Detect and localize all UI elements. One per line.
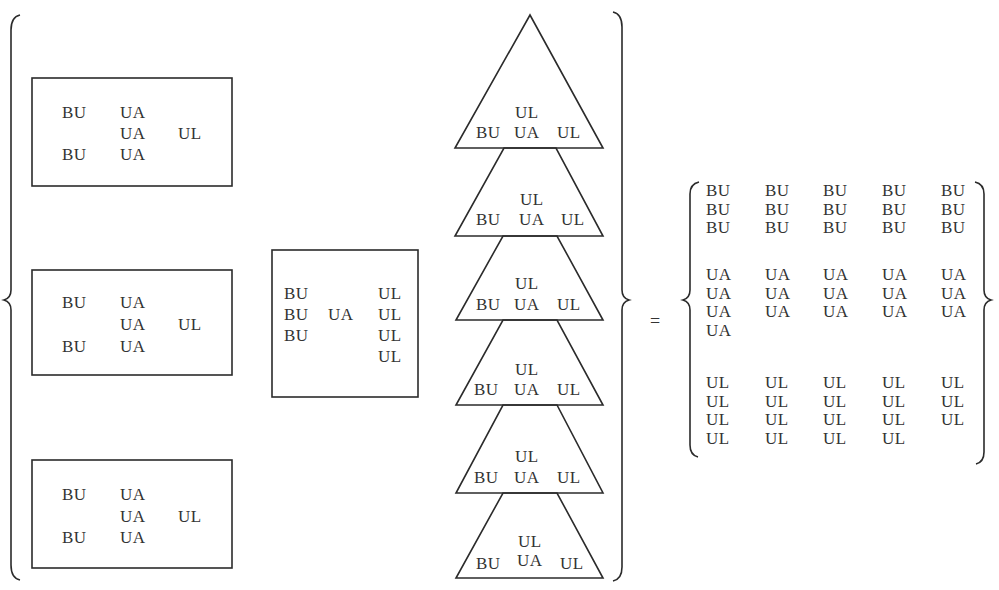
- result-ul-r3-c2: UL: [823, 430, 847, 447]
- tri2-b0: BU: [476, 211, 501, 228]
- result-bu-r2-c0: BU: [706, 219, 731, 236]
- result-ul-r0-c2: UL: [823, 374, 847, 391]
- square-r1-c1: UA: [328, 306, 354, 323]
- result-bu-r2-c2: BU: [823, 219, 848, 236]
- result-ua-r2-c1: UA: [765, 303, 791, 320]
- rect3-r2-c1: UA: [120, 529, 146, 546]
- rect1-r2-c1: UA: [120, 146, 146, 163]
- tri2-b1: UA: [519, 211, 545, 228]
- result-ua-r1-c1: UA: [765, 285, 791, 302]
- rect1-r2-c0: BU: [62, 146, 87, 163]
- result-bu-r0-c3: BU: [882, 182, 907, 199]
- result-ul-r1-c3: UL: [882, 393, 906, 410]
- rect3-r2-c0: BU: [62, 529, 87, 546]
- result-ul-r0-c1: UL: [765, 374, 789, 391]
- result-bu-r2-c4: BU: [941, 219, 966, 236]
- result-bu-r0-c4: BU: [941, 182, 966, 199]
- result-ul-r0-c3: UL: [882, 374, 906, 391]
- square-r2-c0: BU: [284, 327, 309, 344]
- square-r1-c2: UL: [378, 306, 402, 323]
- tri4-b2: UL: [557, 381, 581, 398]
- result-ua-r2-c4: UA: [941, 303, 967, 320]
- tri4-b1: UA: [514, 381, 540, 398]
- result-ua-r0-c1: UA: [765, 266, 791, 283]
- result-bu-r1-c3: BU: [882, 201, 907, 218]
- rect2-r0-c1: UA: [120, 294, 146, 311]
- result-ua-r0-c4: UA: [941, 266, 967, 283]
- left-outer-brace: [4, 15, 20, 580]
- tri6-b1: UA: [517, 552, 543, 569]
- result-ua-r2-c3: UA: [882, 303, 908, 320]
- result-ua-r1-c3: UA: [882, 285, 908, 302]
- rect1-r0-c1: UA: [120, 104, 146, 121]
- tri3-b0: BU: [476, 296, 501, 313]
- tri5-b0: BU: [474, 469, 499, 486]
- result-bu-r0-c0: BU: [706, 182, 731, 199]
- result-ul-r3-c0: UL: [706, 430, 730, 447]
- tri5-b2: UL: [557, 469, 581, 486]
- rect2-r2-c0: BU: [62, 338, 87, 355]
- rect3-r1-c1: UA: [120, 508, 146, 525]
- result-bu-r1-c4: BU: [941, 201, 966, 218]
- square-r0-c0: BU: [284, 285, 309, 302]
- result-ua-r1-c4: UA: [941, 285, 967, 302]
- square-r0-c2: UL: [378, 285, 402, 302]
- result-ul-r1-c0: UL: [706, 393, 730, 410]
- tri1-b0: BU: [476, 124, 501, 141]
- result-bu-r1-c2: BU: [823, 201, 848, 218]
- result-ua-r0-c3: UA: [882, 266, 908, 283]
- result-ul-r0-c4: UL: [941, 374, 965, 391]
- result-ul-r3-c3: UL: [882, 430, 906, 447]
- result-ua-r0-c2: UA: [823, 266, 849, 283]
- tri3-b1: UA: [514, 296, 540, 313]
- rect2-r1-c1: UA: [120, 316, 146, 333]
- result-ul-r0-c0: UL: [706, 374, 730, 391]
- result-bu-r0-c2: BU: [823, 182, 848, 199]
- rect3-r0-c0: BU: [62, 486, 87, 503]
- right-outer-brace: [613, 12, 629, 581]
- tri4-b0: BU: [474, 381, 499, 398]
- tri1-b2: UL: [557, 124, 581, 141]
- tri1-top: UL: [515, 104, 539, 121]
- result-bu-r2-c3: BU: [882, 219, 907, 236]
- result-ul-r1-c2: UL: [823, 393, 847, 410]
- result-ul-r2-c4: UL: [941, 411, 965, 428]
- result-ua-r3-c0: UA: [706, 322, 732, 339]
- result-bu-r1-c1: BU: [765, 201, 790, 218]
- tri3-b2: UL: [557, 296, 581, 313]
- result-ul-r2-c2: UL: [823, 411, 847, 428]
- rect2-r2-c1: UA: [120, 338, 146, 355]
- result-ua-r2-c0: UA: [706, 303, 732, 320]
- result-ua-r1-c2: UA: [823, 285, 849, 302]
- rect1-r1-c2: UL: [178, 125, 202, 142]
- tri6-b0: BU: [476, 555, 501, 572]
- tri5-b1: UA: [514, 469, 540, 486]
- tri3-top: UL: [515, 275, 539, 292]
- result-right-brace: [975, 182, 991, 464]
- rect2-r1-c2: UL: [178, 316, 202, 333]
- result-ul-r2-c1: UL: [765, 411, 789, 428]
- tri1-b1: UA: [514, 124, 540, 141]
- tri2-top: UL: [520, 191, 544, 208]
- result-left-brace: [683, 182, 699, 457]
- tri6-b2: UL: [560, 555, 584, 572]
- result-ul-r2-c0: UL: [706, 411, 730, 428]
- result-ul-r1-c4: UL: [941, 393, 965, 410]
- tri4-top: UL: [515, 361, 539, 378]
- rect3-r1-c2: UL: [178, 508, 202, 525]
- rect2-r0-c0: BU: [62, 294, 87, 311]
- result-bu-r0-c1: BU: [765, 182, 790, 199]
- rect1-r0-c0: BU: [62, 104, 87, 121]
- equals-sign: =: [650, 312, 660, 330]
- result-ul-r2-c3: UL: [882, 411, 906, 428]
- square-r1-c0: BU: [284, 306, 309, 323]
- result-ua-r0-c0: UA: [706, 266, 732, 283]
- rect1-r1-c1: UA: [120, 125, 146, 142]
- square-r3-c2: UL: [378, 348, 402, 365]
- result-ua-r1-c0: UA: [706, 285, 732, 302]
- rect3-r0-c1: UA: [120, 486, 146, 503]
- result-ua-r2-c2: UA: [823, 303, 849, 320]
- result-bu-r2-c1: BU: [765, 219, 790, 236]
- tri6-top: UL: [518, 533, 542, 550]
- result-bu-r1-c0: BU: [706, 201, 731, 218]
